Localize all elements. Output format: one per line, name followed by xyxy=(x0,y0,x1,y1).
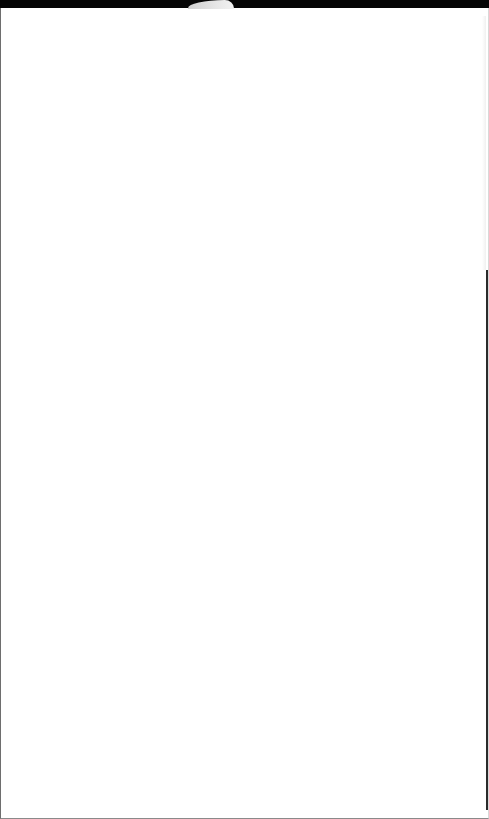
content-area xyxy=(9,16,480,810)
top-bar xyxy=(0,0,489,8)
blank-page xyxy=(0,8,489,819)
scrollbar-track[interactable] xyxy=(482,16,486,270)
scrollbar-thumb[interactable] xyxy=(486,270,488,810)
